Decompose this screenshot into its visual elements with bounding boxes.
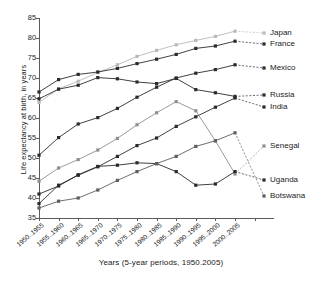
legend-item-senegal[interactable]: Senegal xyxy=(270,142,299,150)
legend-item-botswana[interactable]: Botswana xyxy=(270,192,305,200)
legend-item-russia[interactable]: Russia xyxy=(270,91,294,99)
legend-item-mexico[interactable]: Mexico xyxy=(270,64,295,72)
legend-item-france[interactable]: France xyxy=(270,40,295,48)
legend-item-japan[interactable]: Japan xyxy=(270,29,292,37)
x-axis-tick-mark xyxy=(255,218,256,221)
legend-item-uganda[interactable]: Uganda xyxy=(270,176,298,184)
legend-item-india[interactable]: India xyxy=(270,103,287,111)
life-expectancy-line-chart: Life expectancy at birth, in years Years… xyxy=(0,0,322,282)
